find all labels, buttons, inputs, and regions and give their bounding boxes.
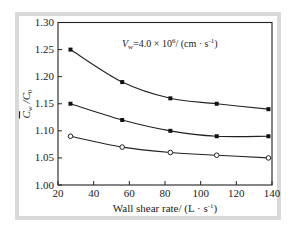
line-chart: 1.001.051.101.151.201.251.30204060801001… — [0, 0, 293, 232]
data-point-filled — [168, 96, 172, 100]
data-point-filled — [266, 107, 270, 111]
x-tick-label: 60 — [124, 187, 136, 199]
data-point-open — [168, 150, 173, 155]
data-point-filled — [120, 118, 124, 122]
data-point-open — [68, 134, 73, 139]
data-point-filled — [68, 48, 72, 52]
data-point-filled — [168, 129, 172, 133]
y-tick-label: 1.15 — [35, 97, 55, 109]
data-point-filled — [266, 134, 270, 138]
y-tick-label: 1.05 — [35, 151, 55, 163]
data-point-open — [266, 156, 271, 161]
x-tick-label: 80 — [160, 187, 172, 199]
svg-text:Cw /C0: Cw /C0 — [20, 89, 34, 119]
y-tick-label: 1.20 — [35, 70, 55, 82]
y-tick-label: 1.25 — [35, 43, 55, 55]
x-axis-label: Wall shear rate/ (L · s-1) — [113, 202, 218, 215]
x-tick-label: 140 — [264, 187, 281, 199]
data-point-open — [120, 145, 125, 150]
data-point-filled — [215, 102, 219, 106]
chart-annotation: Vw=4.0 × 106/ (cm · s-1) — [122, 37, 218, 51]
x-tick-label: 40 — [88, 187, 100, 199]
y-tick-label: 1.30 — [35, 16, 55, 28]
data-point-filled — [215, 134, 219, 138]
y-tick-label: 1.10 — [35, 124, 55, 136]
series-group — [68, 48, 271, 161]
x-tick-label: 120 — [228, 187, 245, 199]
data-point-filled — [120, 80, 124, 84]
data-point-filled — [68, 102, 72, 106]
data-point-open — [214, 153, 219, 158]
x-tick-label: 100 — [192, 187, 209, 199]
y-axis-label: Cw /C0 — [20, 89, 34, 119]
x-tick-label: 20 — [53, 187, 65, 199]
